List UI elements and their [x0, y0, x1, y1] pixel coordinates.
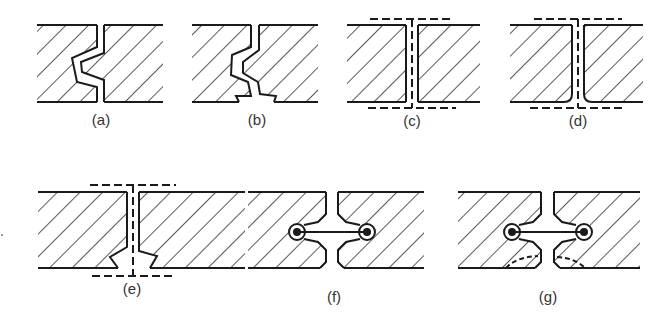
panel-b-right-plate: [243, 25, 318, 102]
panel-e-right-plate: [139, 192, 245, 268]
panel-d-left-plate: [510, 25, 572, 102]
label-f: (f): [327, 288, 341, 305]
panel-c-left-plate: [347, 25, 406, 102]
label-d: (d): [569, 112, 587, 129]
label-c: (c): [403, 112, 421, 129]
panel-d-right-plate: [584, 25, 643, 102]
label-b: (b): [248, 111, 266, 128]
panel-f-connector-left-end: [293, 228, 301, 236]
panel-c: [347, 19, 480, 108]
panel-e-left-plate: [38, 192, 127, 268]
panel-f-connector-right-end: [363, 228, 371, 236]
panel-d: [510, 19, 643, 108]
margin-mark: [1, 234, 3, 236]
label-a: (a): [92, 111, 110, 128]
panel-g: [458, 192, 640, 268]
panel-c-right-plate: [418, 25, 480, 102]
panel-f-right-plate: [338, 192, 424, 268]
panel-g-right-plate: [554, 192, 640, 268]
panel-e: [38, 185, 245, 276]
label-g: (g): [539, 288, 557, 305]
label-e: (e): [123, 280, 141, 297]
panel-b: [192, 25, 318, 102]
panel-g-connector-left-end: [508, 228, 516, 236]
panel-f-left-plate: [248, 192, 326, 268]
panel-g-connector-right-end: [580, 228, 588, 236]
panel-f: [248, 192, 424, 268]
panel-a: [37, 25, 163, 102]
joint-diagram: [0, 0, 664, 322]
